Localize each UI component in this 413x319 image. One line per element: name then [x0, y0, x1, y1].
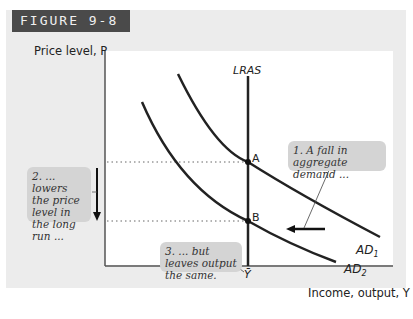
price-down-arrowhead-icon [93, 212, 101, 221]
ad1-label: AD1 [356, 243, 379, 259]
ad1-subscript: 1 [373, 250, 378, 259]
y-bar-tick: Ȳ [244, 268, 251, 281]
lras-label: LRAS [233, 64, 261, 77]
point-b-label: B [252, 211, 260, 224]
callout-2: 2. ... lowers the price level in the lon… [27, 167, 91, 222]
callout-1: 1. A fall in aggregate demand ... [288, 141, 386, 171]
ad2-text: AD [344, 262, 361, 276]
figure-9-8: FIGURE 9-8 Price level, P LRAS A B AD1 A… [0, 0, 413, 319]
shift-arrowhead-icon [286, 225, 295, 233]
point-b [245, 218, 251, 224]
point-a [245, 159, 251, 165]
ad2-subscript: 2 [361, 269, 366, 278]
ad1-text: AD [356, 243, 373, 257]
ad2-label: AD2 [344, 262, 367, 278]
point-a-label: A [252, 152, 260, 165]
callout-3: 3. ... but leaves output the same. [160, 242, 242, 272]
ad2-curve [142, 102, 336, 262]
x-axis-label: Income, output, Y [308, 286, 410, 300]
